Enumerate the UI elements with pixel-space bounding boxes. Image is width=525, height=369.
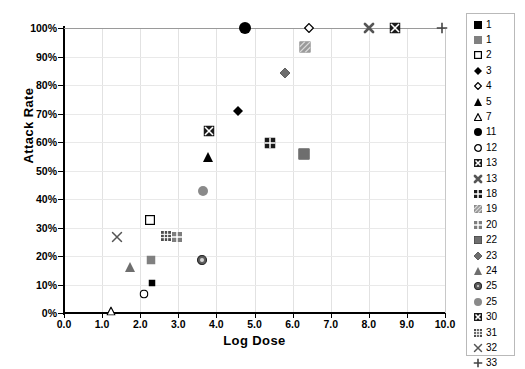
- y-axis-tick: [58, 57, 64, 58]
- legend-item-31[interactable]: 31: [467, 325, 514, 340]
- y-axis-tick-label: 10%: [11, 280, 57, 290]
- legend-label: 11: [486, 127, 496, 137]
- scatter-chart: 0%10%20%30%40%50%60%70%80%90%100% 0.01.0…: [0, 0, 525, 369]
- legend-marker-icon: [471, 111, 484, 124]
- x-axis-tick: [331, 313, 332, 318]
- x-axis-tick: [369, 313, 370, 318]
- x-axis-tick-label: 2.0: [120, 318, 160, 330]
- data-point: [106, 307, 115, 316]
- legend-item-25[interactable]: 25: [467, 294, 514, 309]
- x-axis-tick: [293, 313, 294, 318]
- gridline-horizontal: [64, 199, 445, 200]
- legend-marker-icon: [471, 157, 484, 170]
- legend-item-5[interactable]: 5: [467, 94, 514, 109]
- data-point: [264, 137, 275, 148]
- marker-diamond-filled: [474, 67, 482, 75]
- gridline-horizontal: [64, 142, 445, 143]
- gridline-horizontal: [64, 228, 445, 229]
- legend-marker-icon: [471, 18, 484, 31]
- legend-marker-icon: [471, 357, 484, 369]
- legend-item-1[interactable]: 1: [467, 32, 514, 47]
- marker-square-quad-gray: [474, 221, 482, 229]
- legend-marker-icon: [471, 264, 484, 277]
- marker-x-bold: [473, 174, 482, 183]
- marker-square-x-box: [474, 313, 482, 321]
- x-axis-tick: [445, 313, 446, 318]
- legend-label: 13: [486, 174, 497, 184]
- legend-item-19[interactable]: 19: [467, 202, 514, 217]
- legend-marker-icon: [471, 80, 484, 93]
- x-axis-tick-label: 4.0: [196, 318, 236, 330]
- legend-item-22[interactable]: 22: [467, 232, 514, 247]
- marker-square-gray: [474, 36, 482, 44]
- legend-item-2[interactable]: 2: [467, 48, 514, 63]
- gridline-horizontal: [64, 285, 445, 286]
- y-axis-tick: [58, 171, 64, 172]
- legend-item-30[interactable]: 30: [467, 309, 514, 324]
- legend-marker-icon: [471, 295, 484, 308]
- legend-label: 22: [486, 235, 497, 245]
- data-point: [299, 41, 310, 52]
- legend-marker-icon: [471, 34, 484, 47]
- marker-square-filled-small: [474, 21, 482, 29]
- y-axis-tick-label: 30%: [11, 223, 57, 233]
- y-axis-tick-label: 100%: [11, 23, 57, 33]
- x-axis-tick: [255, 313, 256, 318]
- legend-item-33[interactable]: 33: [467, 356, 514, 369]
- x-axis-title: Log Dose: [64, 333, 445, 348]
- legend-marker-icon: [471, 203, 484, 216]
- data-point: [161, 231, 171, 241]
- y-axis-tick-label: 0%: [11, 308, 57, 318]
- x-axis-tick: [407, 313, 408, 318]
- x-axis-tick-label: 10.0: [425, 318, 465, 330]
- marker-circle-open: [474, 144, 482, 152]
- data-point: [146, 255, 155, 264]
- marker-triangle-filled: [474, 98, 482, 106]
- legend-label: 33: [486, 358, 497, 368]
- y-axis-tick: [58, 28, 64, 29]
- data-point: [203, 126, 214, 137]
- y-axis-tick: [58, 85, 64, 86]
- legend-label: 31: [486, 328, 497, 338]
- legend-item-13[interactable]: 13: [467, 156, 514, 171]
- legend-label: 25: [486, 297, 497, 307]
- legend-label: 7: [486, 112, 492, 122]
- legend-marker-icon: [471, 187, 484, 200]
- legend-item-11[interactable]: 11: [467, 125, 514, 140]
- legend-item-23[interactable]: 23: [467, 248, 514, 263]
- legend-item-3[interactable]: 3: [467, 63, 514, 78]
- legend-label: 23: [486, 251, 497, 261]
- legend-label: 5: [486, 97, 492, 107]
- marker-square-x-box: [474, 159, 482, 167]
- data-point: [148, 280, 155, 287]
- legend-item-32[interactable]: 32: [467, 340, 514, 355]
- marker-diamond-gray: [474, 252, 482, 260]
- y-axis-tick: [58, 114, 64, 115]
- y-axis-tick-label: 20%: [11, 251, 57, 261]
- legend-marker-icon: [471, 341, 484, 354]
- legend-item-18[interactable]: 18: [467, 186, 514, 201]
- legend-marker-icon: [471, 95, 484, 108]
- marker-circle-filled: [474, 128, 482, 136]
- marker-plus: [473, 359, 482, 368]
- data-point: [203, 152, 213, 162]
- legend-label: 32: [486, 343, 497, 353]
- marker-square-grid-gray: [474, 329, 482, 337]
- legend-item-12[interactable]: 12: [467, 140, 514, 155]
- legend-item-13[interactable]: 13: [467, 171, 514, 186]
- x-axis-tick-label: 8.0: [349, 318, 389, 330]
- legend-label: 4: [486, 81, 492, 91]
- x-axis-tick-label: 1.0: [82, 318, 122, 330]
- legend-item-25[interactable]: 25: [467, 279, 514, 294]
- legend-item-20[interactable]: 20: [467, 217, 514, 232]
- legend-item-4[interactable]: 4: [467, 79, 514, 94]
- data-point: [125, 262, 135, 272]
- legend-item-7[interactable]: 7: [467, 109, 514, 124]
- legend-item-1[interactable]: 1: [467, 17, 514, 32]
- marker-square-open: [474, 51, 482, 59]
- y-axis-title: Attack Rate: [21, 51, 36, 201]
- gridline-horizontal: [64, 114, 445, 115]
- legend-label: 1: [486, 20, 492, 30]
- data-point: [239, 22, 251, 34]
- legend-item-24[interactable]: 24: [467, 263, 514, 278]
